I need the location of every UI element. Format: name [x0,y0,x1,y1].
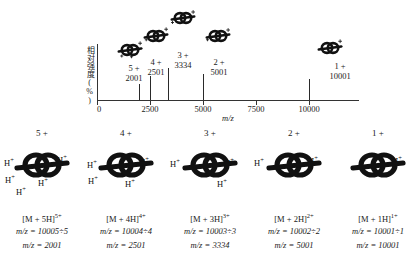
peak-stem-2plus [203,74,204,100]
adduct-formula-1plus: [M + 1H]1+ [336,212,420,224]
mz-result-3plus: m/z = 3334 [168,240,252,250]
proton-label-4plus-3: H+ [88,174,98,186]
knot-icon-2plus [203,26,233,46]
adduct-charge-4plus: 4+ [139,212,146,219]
column-header-4plus: 4 + [84,128,168,138]
charge-column-4plus: 4 + H+ H+ H+ H+ [M + 4H]4+ m/z = 10004÷4 [84,128,168,277]
adduct-charge-1plus: 1+ [391,212,398,219]
peak-label-1plus: 1 + 10001 [329,62,350,81]
adduct-base-5plus: [M + 5H] [22,214,55,224]
peak-charge-4plus: 4 + [150,57,161,67]
charge-state-panel: 5 + H+ H+ H+ H+ H+ [M + 5H]5+ m/z = 100 [0,128,420,277]
charge-column-5plus: 5 + H+ H+ H+ H+ H+ [M + 5H]5+ m/z = 100 [0,128,84,277]
peak-mz-2plus: 5001 [211,67,228,77]
proton-label-5plus-5: H+ [16,185,26,197]
adduct-charge-5plus: 5+ [55,212,62,219]
proton-label-4plus-2: H+ [139,155,149,167]
column-header-2plus: 2 + [252,128,336,138]
mz-result-2plus: m/z = 5001 [252,240,336,250]
adduct-base-4plus: [M + 4H] [106,214,139,224]
peak-charge-3plus: 3 + [177,50,188,60]
mz-expression-5plus: m/z = 10005÷5 [0,226,84,236]
mz-result-1plus: m/z = 10001 [336,240,420,250]
peak-mz-5plus: 2001 [126,73,143,83]
peak-charge-2plus: 2 + [213,57,224,67]
proton-label-5plus-2: H+ [57,153,67,165]
proton-label-2plus-1: H+ [254,156,264,168]
column-header-5plus: 5 + [0,128,84,138]
peak-stem-5plus [139,84,140,100]
proton-label-3plus-1: H+ [170,157,180,169]
proton-label-3plus-3: H+ [217,177,227,189]
proton-label-4plus-4: H+ [125,177,135,189]
mz-result-4plus: m/z = 2501 [84,240,168,250]
adduct-formula-2plus: [M + 2H]2+ [252,212,336,224]
knot-icon-4plus [141,26,171,46]
peak-mz-4plus: 2501 [148,67,165,77]
y-axis-line [97,44,98,101]
knot-icon-1plus [315,38,345,58]
proton-label-3plus-2: H+ [224,156,234,168]
mz-expression-3plus: m/z = 10003÷3 [168,226,252,236]
knot-structure-5plus: H+ H+ H+ H+ H+ [0,140,84,198]
proton-label-5plus-1: H+ [4,156,14,168]
peak-stem-3plus [168,68,169,100]
proton-label-5plus-3: H+ [5,173,15,185]
column-header-3plus: 3 + [168,128,252,138]
mz-expression-1plus: m/z = 10001÷1 [336,226,420,236]
proton-label-4plus-1: H+ [87,158,97,170]
proton-label-5plus-4: H+ [38,176,48,188]
proton-label-2plus-2: H+ [308,154,318,166]
adduct-formula-5plus: [M + 5H]5+ [0,212,84,224]
peak-mz-1plus: 10001 [329,71,350,81]
charge-column-2plus: 2 + H+ H+ [M + 2H]2+ m/z = 10002÷2 m/z =… [252,128,336,277]
mass-spectrum: 相对强度(%) 0 2500 5000 7500 10000 m/z 5 + 2… [0,0,420,125]
x-axis-label: m/z [222,113,234,123]
x-tick-label-1: 2500 [142,104,159,114]
peak-mz-3plus: 3334 [175,60,192,70]
peak-charge-5plus: 5 + [128,63,139,73]
adduct-charge-3plus: 3+ [223,212,230,219]
knot-icon-3plus [168,8,198,28]
peak-label-2plus: 2 + 5001 [211,58,228,77]
peak-charge-1plus: 1 + [334,61,345,71]
x-axis-line [97,100,359,101]
column-header-1plus: 1 + [336,128,420,138]
adduct-formula-4plus: [M + 4H]4+ [84,212,168,224]
knot-structure-2plus: H+ H+ [252,140,336,198]
knot-structure-3plus: H+ H+ H+ [168,140,252,198]
peak-label-5plus: 5 + 2001 [126,64,143,83]
x-tick-label-2: 5000 [195,104,212,114]
charge-column-1plus: 1 + H+ [M + 1H]1+ m/z = 10001÷1 m/z = 10… [336,128,420,277]
peak-stem-4plus [150,76,151,100]
peak-label-3plus: 3 + 3334 [175,51,192,70]
knot-structure-1plus: H+ [336,140,420,198]
x-tick-label-0: 0 [97,104,101,114]
proton-label-1plus-1: H+ [392,154,402,166]
adduct-base-3plus: [M + 3H] [190,214,223,224]
mz-expression-2plus: m/z = 10002÷2 [252,226,336,236]
x-tick-label-3: 7500 [248,104,265,114]
knot-structure-4plus: H+ H+ H+ H+ [84,140,168,198]
peak-stem-1plus [309,79,310,100]
adduct-charge-2plus: 2+ [307,212,314,219]
x-tick-label-4: 10000 [298,104,319,114]
adduct-base-2plus: [M + 2H] [274,214,307,224]
mz-expression-4plus: m/z = 10004÷4 [84,226,168,236]
mz-result-5plus: m/z = 2001 [0,240,84,250]
adduct-formula-3plus: [M + 3H]3+ [168,212,252,224]
figure-root: 相对强度(%) 0 2500 5000 7500 10000 m/z 5 + 2… [0,0,420,277]
peak-label-4plus: 4 + 2501 [148,58,165,77]
adduct-base-1plus: [M + 1H] [358,214,391,224]
y-axis-label: 相对强度(%) [80,44,94,106]
charge-column-3plus: 3 + H+ H+ H+ [M + 3H]3+ m/z = 10003÷3 m/… [168,128,252,277]
